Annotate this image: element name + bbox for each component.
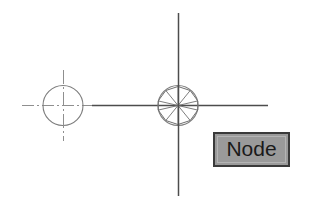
node-callout-label: Node [226, 138, 276, 159]
node-callout-box[interactable]: Node [213, 132, 290, 167]
drawing-canvas: Node [0, 0, 319, 199]
cad-drawing-svg [0, 0, 319, 199]
